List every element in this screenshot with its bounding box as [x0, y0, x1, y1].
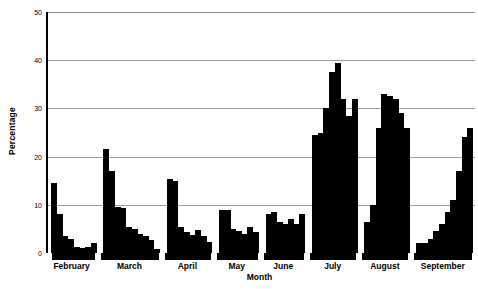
x-axis-tick: [408, 253, 414, 260]
x-axis-tick: [472, 253, 478, 260]
bar-chart: Percentage 01020304050 FebruaryMarchApri…: [0, 0, 478, 289]
x-tick-label-february: February: [53, 261, 89, 271]
y-tick-label-40: 40: [34, 57, 42, 64]
x-axis-tick: [258, 253, 264, 260]
x-tick-label-may: May: [228, 261, 245, 271]
x-axis-tick: [211, 253, 217, 260]
x-axis: [46, 253, 473, 260]
y-tick-label-20: 20: [34, 153, 42, 160]
y-tick-label-0: 0: [38, 250, 42, 257]
plot-inner: [48, 12, 475, 253]
y-tick-label-30: 30: [34, 105, 42, 112]
bar: [299, 214, 305, 253]
x-axis-tick: [159, 253, 165, 260]
x-tick-label-august: August: [370, 261, 399, 271]
x-tick-label-march: March: [117, 261, 142, 271]
x-tick-label-june: June: [273, 261, 293, 271]
bar: [352, 99, 358, 253]
y-tick-label-50: 50: [34, 9, 42, 16]
y-axis-tick-labels: 01020304050: [24, 0, 45, 262]
y-axis-title: Percentage: [0, 0, 24, 262]
x-axis-tick: [356, 253, 362, 260]
x-axis-tick: [46, 253, 52, 260]
bar: [467, 128, 473, 253]
y-tick-label-10: 10: [34, 201, 42, 208]
x-tick-label-september: September: [421, 261, 465, 271]
x-tick-label-april: April: [178, 261, 197, 271]
x-axis-tick: [95, 253, 101, 260]
bar: [253, 232, 259, 253]
x-axis-title: Month: [46, 272, 473, 282]
bar: [91, 243, 97, 253]
x-axis-tick: [304, 253, 310, 260]
bar: [404, 128, 410, 253]
plot-area: [46, 12, 475, 253]
bar: [206, 242, 212, 253]
x-tick-label-july: July: [324, 261, 341, 271]
y-axis-title-text: Percentage: [7, 107, 17, 155]
bars-layer: [48, 12, 475, 253]
